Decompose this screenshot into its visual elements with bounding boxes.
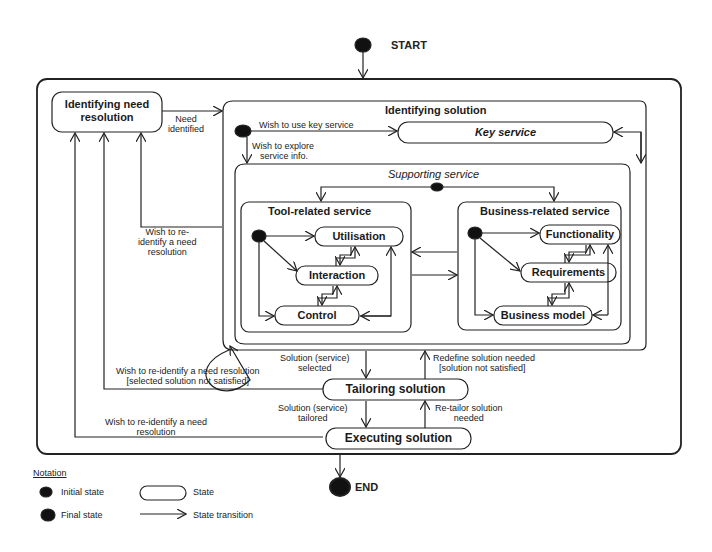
notation-state: State xyxy=(193,487,214,497)
supporting-service-title: Supporting service xyxy=(388,168,479,180)
retailor-label: Re-tailor solution needed xyxy=(435,403,503,423)
reidentify-b-label: Wish to re-identify a need resolution [s… xyxy=(116,366,260,386)
explore-label: Wish to explore service info. xyxy=(252,141,314,161)
tool-related-title: Tool-related service xyxy=(268,205,371,217)
end-label: END xyxy=(355,482,378,492)
notation-initial-state: Initial state xyxy=(61,487,104,497)
notation-final-state: Final state xyxy=(61,510,103,520)
identifying-solution-title: Identifying solution xyxy=(385,104,486,116)
business-model-label: Business model xyxy=(494,309,592,321)
tailored-label: Solution (service) tailored xyxy=(278,403,348,423)
selected-label: Solution (service) selected xyxy=(280,353,350,373)
identifying-need-title: Identifying need resolution xyxy=(52,98,162,124)
reidentify-c-label: Wish to re-identify a need resolution xyxy=(105,417,207,437)
start-initial-node xyxy=(355,38,371,52)
notation-state-transition: State transition xyxy=(193,510,253,520)
tailoring-label: Tailoring solution xyxy=(323,382,468,396)
business-related-title: Business-related service xyxy=(480,205,610,217)
executing-label: Executing solution xyxy=(326,431,471,445)
requirements-label: Requirements xyxy=(521,266,616,278)
start-label: START xyxy=(391,40,427,50)
notation-title: Notation xyxy=(33,468,67,478)
redefine-label: Redefine solution needed [solution not s… xyxy=(433,353,535,373)
end-final-node xyxy=(330,478,350,496)
utilisation-label: Utilisation xyxy=(315,230,403,242)
key-service-title: Key service xyxy=(398,126,613,138)
interaction-label: Interaction xyxy=(296,269,378,281)
reidentify-a-label: Wish to re- identify a need resolution xyxy=(138,227,197,257)
functionality-label: Functionality xyxy=(540,228,620,240)
use-key-service-label: Wish to use key service xyxy=(259,120,354,130)
control-label: Control xyxy=(275,309,359,321)
need-identified-label: Need identified xyxy=(168,114,204,134)
